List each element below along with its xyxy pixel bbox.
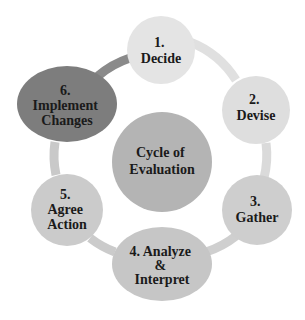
connector-gather-analyze bbox=[206, 236, 236, 252]
connector-decide-devise bbox=[190, 42, 236, 80]
center-label-line-1: Cycle of bbox=[136, 145, 185, 160]
step-gather: 3. Gather bbox=[222, 175, 292, 245]
connector-devise-gather bbox=[264, 143, 267, 178]
step-decide-label-line-2: Decide bbox=[141, 51, 181, 66]
step-analyze-label-line-3: Interpret bbox=[135, 272, 190, 287]
step-decide-circle bbox=[127, 16, 195, 84]
step-implement-label-line-1: 6. bbox=[60, 83, 71, 98]
step-analyze-label-line-1: 4. Analyze bbox=[130, 244, 191, 259]
step-analyze-label-line-2: & bbox=[154, 258, 166, 273]
connector-analyze-agree bbox=[90, 238, 115, 252]
step-decide-label-line-1: 1. bbox=[154, 35, 165, 50]
step-devise: 2. Devise bbox=[222, 76, 290, 144]
cycle-diagram: Cycle of Evaluation 1. Decide 2. Devise … bbox=[0, 0, 305, 320]
step-gather-label-line-1: 3. bbox=[250, 194, 261, 209]
step-analyze: 4. Analyze & Interpret bbox=[112, 227, 212, 301]
step-implement-label-line-2: Implement bbox=[33, 98, 99, 113]
step-implement: 6. Implement Changes bbox=[17, 66, 117, 142]
step-agree: 5. Agree Action bbox=[31, 174, 103, 246]
step-decide: 1. Decide bbox=[127, 16, 195, 84]
step-gather-label-line-2: Gather bbox=[236, 210, 279, 225]
center-label-line-2: Evaluation bbox=[129, 162, 195, 177]
step-agree-label-line-1: 5. bbox=[60, 187, 71, 202]
step-devise-label-line-2: Devise bbox=[237, 108, 276, 123]
connector-agree-implement bbox=[54, 142, 56, 175]
step-agree-label-line-2: Agree bbox=[48, 202, 84, 217]
center-node: Cycle of Evaluation bbox=[112, 112, 212, 212]
step-devise-label-line-1: 2. bbox=[249, 92, 260, 107]
connector-implement-decide bbox=[98, 58, 130, 76]
step-implement-label-line-3: Changes bbox=[41, 113, 93, 128]
step-agree-label-line-3: Action bbox=[47, 217, 87, 232]
